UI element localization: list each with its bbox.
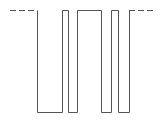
signal-trace xyxy=(38,11,130,113)
waveform-diagram xyxy=(0,0,166,120)
square-wave-signal xyxy=(0,0,166,120)
